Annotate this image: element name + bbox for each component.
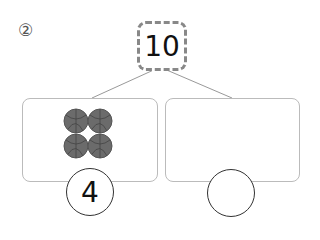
- whole-number-box: 10: [137, 21, 187, 71]
- basketball-icon: [88, 134, 112, 158]
- right-part-answer-input[interactable]: [207, 169, 255, 217]
- basketball-icon: [64, 134, 88, 158]
- basketball-icon: [64, 109, 88, 133]
- left-part-number: 4: [66, 168, 114, 216]
- basketball-icon: [88, 109, 112, 133]
